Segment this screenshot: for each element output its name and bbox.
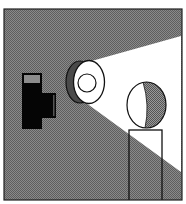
projector-top-inset <box>24 75 40 83</box>
projector-illustration <box>0 0 186 204</box>
lens-inner-ring <box>78 74 96 92</box>
projector-side-stripe <box>53 95 55 116</box>
illustration-canvas <box>0 0 186 204</box>
